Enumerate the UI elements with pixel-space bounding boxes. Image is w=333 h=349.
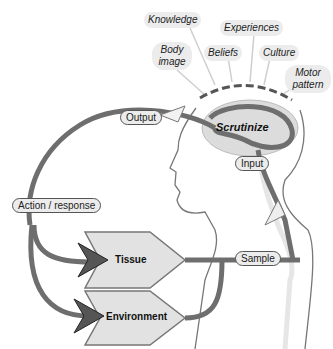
scrutinize-label: Scrutinize [216,121,269,133]
tissue-label: Tissue [115,254,147,265]
output-label: Output [120,110,162,125]
knowledge-label: Knowledge [144,12,201,28]
input-label: Input [235,156,269,171]
body-image-label: Body image [152,42,192,70]
action-to-tissue [34,225,90,262]
sample-label: Sample [235,251,281,266]
action-response-label: Action / response [12,198,101,213]
experiences-label: Experiences [220,20,283,36]
culture-label: Culture [259,45,299,61]
beliefs-label: Beliefs [204,45,242,61]
motor-pattern-label: Motor pattern [285,65,331,93]
spinal-pathway [258,150,292,349]
influence-dashed-arc [200,85,292,100]
environment-label: Environment [106,311,167,322]
output-arrowhead [160,106,185,122]
